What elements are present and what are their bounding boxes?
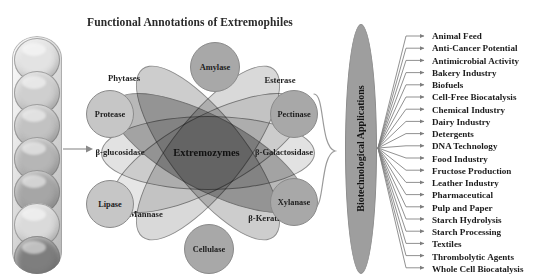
application-item: Whole Cell Biocatalysis [432,263,552,275]
enzyme-label-amylase: Amylase [200,63,230,72]
enzyme-label-xylanase: Xylanase [278,198,310,207]
application-item: Dairy Industry [432,116,552,128]
extremophile-sample-photo [12,36,62,274]
enzyme-circle-protease: Protease [86,90,134,138]
enzyme-label-pectinase: Pectinase [277,110,310,119]
enzyme-circle-lipase: Lipase [86,180,134,228]
applications-list: Animal FeedAnti-Cancer PotentialAntimicr… [432,30,552,275]
application-item: Starch Hydrolysis [432,214,552,226]
application-item: Biofuels [432,79,552,91]
extremozymes-venn: Phytases Esterase β-glucosidase β-Galact… [84,28,329,276]
enzyme-label-lipase: Lipase [98,200,122,209]
application-item: Food Industry [432,153,552,165]
application-item: Detergents [432,128,552,140]
application-item: Bakery Industry [432,67,552,79]
application-item: Leather Industry [432,177,552,189]
enzyme-circle-cellulase: Cellulase [184,224,234,274]
application-item: Cell-Free Biocatalysis [432,91,552,103]
biotechnological-applications-ellipse [345,24,377,274]
application-item: Pulp and Paper [432,202,552,214]
sample-dish [14,236,60,274]
page-title: Functional Annotations of Extremophiles [60,16,320,28]
application-item: Anti-Cancer Potential [432,42,552,54]
application-item: Fructose Production [432,165,552,177]
venn-label-glucosidase: β-glucosidase [96,147,145,157]
venn-core-label: Extremozymes [173,147,239,158]
application-item: Chemical Industry [432,104,552,116]
enzyme-label-protease: Protease [95,110,125,119]
enzyme-circle-amylase: Amylase [190,42,240,92]
application-item: Textiles [432,238,552,250]
venn-label-mannase: Mannase [129,209,162,219]
application-item: DNA Technology [432,140,552,152]
application-item: Thrombolytic Agents [432,251,552,263]
enzyme-circle-pectinase: Pectinase [270,90,318,138]
venn-label-phytases: Phytases [108,73,140,83]
application-arrow-fan [376,24,428,272]
application-item: Antimicrobial Activity [432,55,552,67]
venn-label-esterase: Esterase [264,75,295,85]
enzyme-label-cellulase: Cellulase [193,245,225,254]
application-item: Starch Processing [432,226,552,238]
application-item: Pharmaceutical [432,189,552,201]
enzyme-circle-xylanase: Xylanase [270,178,318,226]
venn-label-galactosidase: β-Galactosidase [255,147,313,157]
figure-canvas: Functional Annotations of Extremophiles … [0,0,555,279]
application-item: Animal Feed [432,30,552,42]
